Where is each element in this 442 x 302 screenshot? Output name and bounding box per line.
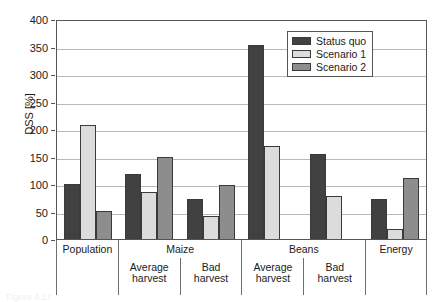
bar [371,199,387,239]
x-axis-sub-label-line: harvest [132,273,166,284]
legend-label: Scenario 1 [316,48,366,60]
y-tick-mark [51,48,55,49]
bar [387,229,403,239]
legend-label: Status quo [316,35,366,47]
legend-item: Status quo [292,35,366,47]
bar [203,216,219,239]
y-tick-label: 200 [18,125,48,135]
y-tick-mark [51,103,55,104]
x-axis-group-label: Population [56,240,118,258]
x-axis-group-label: Energy [365,240,427,258]
bar-group [57,21,119,239]
legend-label: Scenario 2 [316,61,366,73]
y-tick-label: 300 [18,70,48,80]
x-axis-group-label: Maize [118,240,242,258]
x-axis-sub-label [56,258,118,295]
y-tick-mark [51,158,55,159]
x-axis-sub-label: Averageharvest [241,258,303,295]
y-tick-label: 350 [18,43,48,53]
legend-swatch [292,37,311,45]
y-tick-mark [51,130,55,131]
chart-legend: Status quoScenario 1Scenario 2 [287,31,373,77]
bar-chart-figure: DSS [%] 050100150200250300350400 Status … [0,0,442,302]
figure-caption: Figure 4.17 [6,292,52,302]
y-tick-label: 250 [18,98,48,108]
y-tick-mark [51,240,55,241]
bar [96,211,112,239]
bar [157,157,173,239]
legend-item: Scenario 2 [292,61,366,73]
y-tick-mark [51,185,55,186]
bar [125,174,141,239]
bar [187,199,203,239]
bar [141,192,157,239]
y-axis-title: DSS [%] [23,69,35,159]
y-tick-mark [51,213,55,214]
y-tick-label: 50 [18,208,48,218]
x-axis-group-label: Beans [241,240,365,258]
y-tick-label: 100 [18,180,48,190]
legend-swatch [292,63,311,71]
bar [64,184,80,239]
bar-group [180,21,242,239]
legend-swatch [292,50,311,58]
y-tick-label: 0 [18,235,48,245]
x-axis-sub-labels: AverageharvestBadharvestAverageharvestBa… [56,258,427,295]
x-axis-sub-label-line: harvest [318,273,352,284]
x-axis-group-headers: PopulationMaizeBeansEnergy [56,240,427,258]
bar-group [365,21,427,239]
bar [80,125,96,239]
x-axis-sub-label: Badharvest [180,258,242,295]
x-axis-sub-label: Badharvest [303,258,365,295]
bar [403,178,419,239]
x-axis-sub-label [365,258,427,295]
y-tick-label: 400 [18,15,48,25]
bar [326,196,342,239]
y-tick-mark [51,75,55,76]
x-axis-sub-label-line: harvest [256,273,290,284]
y-tick-mark [51,20,55,21]
y-tick-label: 150 [18,153,48,163]
bar [248,45,264,239]
bar [310,154,326,239]
legend-item: Scenario 1 [292,48,366,60]
bar [219,185,235,239]
bar-group [119,21,181,239]
x-axis-sub-label: Averageharvest [118,258,180,295]
bar [264,146,280,239]
x-axis-sub-label-line: harvest [194,273,228,284]
